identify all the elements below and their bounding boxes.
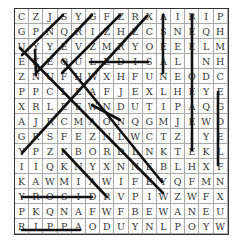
letter-cell[interactable]: X: [214, 189, 228, 204]
letter-cell[interactable]: Q: [43, 159, 57, 174]
letter-cell[interactable]: N: [72, 159, 86, 174]
letter-cell[interactable]: Z: [129, 24, 143, 39]
letter-cell[interactable]: N: [143, 219, 157, 234]
letter-cell[interactable]: K: [29, 204, 43, 219]
letter-cell[interactable]: I: [185, 54, 199, 69]
letter-cell[interactable]: I: [157, 99, 171, 114]
letter-cell[interactable]: B: [72, 144, 86, 159]
letter-cell[interactable]: M: [214, 39, 228, 54]
letter-cell[interactable]: W: [214, 219, 228, 234]
letter-cell[interactable]: G: [86, 9, 100, 24]
letter-cell[interactable]: R: [72, 24, 86, 39]
letter-cell[interactable]: W: [157, 189, 171, 204]
letter-cell[interactable]: H: [185, 159, 199, 174]
letter-cell[interactable]: E: [185, 144, 199, 159]
letter-cell[interactable]: E: [15, 54, 29, 69]
letter-cell[interactable]: Q: [58, 24, 72, 39]
letter-cell[interactable]: N: [157, 69, 171, 84]
letter-cell[interactable]: R: [29, 99, 43, 114]
letter-cell[interactable]: F: [214, 159, 228, 174]
letter-cell[interactable]: A: [86, 174, 100, 189]
letter-cell[interactable]: E: [214, 84, 228, 99]
letter-cell[interactable]: B: [185, 9, 199, 24]
letter-cell[interactable]: N: [214, 174, 228, 189]
letter-cell[interactable]: Z: [114, 9, 128, 24]
letter-cell[interactable]: A: [72, 204, 86, 219]
letter-cell[interactable]: Z: [86, 129, 100, 144]
letter-cell[interactable]: Z: [86, 39, 100, 54]
letter-cell[interactable]: C: [43, 84, 57, 99]
letter-cell[interactable]: E: [185, 39, 199, 54]
letter-cell[interactable]: W: [86, 69, 100, 84]
letter-cell[interactable]: N: [199, 54, 213, 69]
letter-cell[interactable]: T: [157, 129, 171, 144]
letter-cell[interactable]: Q: [199, 99, 213, 114]
letter-cell[interactable]: V: [72, 39, 86, 54]
letter-cell[interactable]: O: [58, 54, 72, 69]
letter-cell[interactable]: H: [114, 69, 128, 84]
letter-cell[interactable]: O: [143, 39, 157, 54]
letter-cell[interactable]: N: [171, 24, 185, 39]
letter-cell[interactable]: A: [15, 114, 29, 129]
letter-cell[interactable]: Q: [171, 174, 185, 189]
letter-cell[interactable]: N: [29, 69, 43, 84]
letter-cell[interactable]: F: [100, 84, 114, 99]
letter-cell[interactable]: O: [86, 144, 100, 159]
letter-cell[interactable]: Z: [100, 24, 114, 39]
letter-cell[interactable]: B: [129, 204, 143, 219]
letter-cell[interactable]: I: [72, 174, 86, 189]
letter-cell[interactable]: A: [86, 84, 100, 99]
letter-cell[interactable]: U: [72, 54, 86, 69]
letter-cell[interactable]: D: [114, 54, 128, 69]
letter-cell[interactable]: L: [58, 84, 72, 99]
letter-cell[interactable]: P: [29, 84, 43, 99]
letter-cell[interactable]: X: [143, 9, 157, 24]
letter-cell[interactable]: R: [43, 114, 57, 129]
letter-cell[interactable]: X: [199, 159, 213, 174]
letter-cell[interactable]: A: [72, 219, 86, 234]
letter-cell[interactable]: Q: [199, 24, 213, 39]
letter-cell[interactable]: E: [72, 84, 86, 99]
letter-cell[interactable]: E: [171, 69, 185, 84]
letter-cell[interactable]: O: [100, 114, 114, 129]
letter-cell[interactable]: E: [157, 39, 171, 54]
letter-cell[interactable]: E: [58, 39, 72, 54]
letter-cell[interactable]: I: [29, 159, 43, 174]
letter-cell[interactable]: M: [157, 114, 171, 129]
letter-cell[interactable]: J: [43, 9, 57, 24]
letter-cell[interactable]: O: [43, 189, 57, 204]
letter-cell[interactable]: U: [143, 69, 157, 84]
letter-cell[interactable]: I: [29, 219, 43, 234]
letter-cell[interactable]: E: [185, 24, 199, 39]
letter-cell[interactable]: Y: [72, 9, 86, 24]
letter-cell[interactable]: G: [214, 99, 228, 114]
letter-cell[interactable]: D: [100, 219, 114, 234]
letter-cell[interactable]: N: [114, 159, 128, 174]
letter-cell[interactable]: Y: [43, 39, 57, 54]
letter-cell[interactable]: J: [171, 114, 185, 129]
letter-cell[interactable]: I: [114, 174, 128, 189]
letter-cell[interactable]: Y: [15, 144, 29, 159]
letter-cell[interactable]: L: [43, 99, 57, 114]
letter-cell[interactable]: D: [114, 144, 128, 159]
letter-cell[interactable]: G: [15, 24, 29, 39]
letter-cell[interactable]: I: [171, 9, 185, 24]
letter-cell[interactable]: S: [143, 54, 157, 69]
letter-cell[interactable]: F: [129, 69, 143, 84]
letter-cell[interactable]: S: [58, 9, 72, 24]
letter-cell[interactable]: W: [100, 174, 114, 189]
letter-cell[interactable]: L: [114, 129, 128, 144]
letter-cell[interactable]: F: [58, 69, 72, 84]
letter-cell[interactable]: Z: [15, 69, 29, 84]
letter-cell[interactable]: L: [171, 159, 185, 174]
letter-cell[interactable]: N: [129, 159, 143, 174]
letter-cell[interactable]: N: [100, 99, 114, 114]
letter-cell[interactable]: Y: [86, 159, 100, 174]
letter-cell[interactable]: R: [29, 189, 43, 204]
letter-cell[interactable]: T: [171, 144, 185, 159]
letter-cell[interactable]: L: [86, 54, 100, 69]
letter-cell[interactable]: W: [157, 204, 171, 219]
letter-cell[interactable]: L: [171, 54, 185, 69]
letter-cell[interactable]: Z: [43, 144, 57, 159]
letter-cell[interactable]: X: [143, 84, 157, 99]
